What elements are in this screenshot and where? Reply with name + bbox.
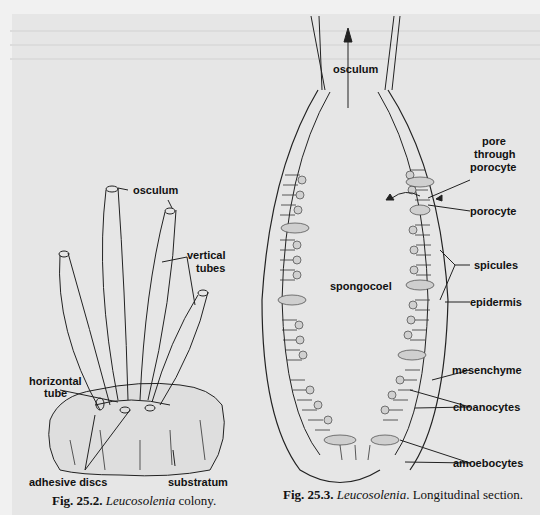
label-mesenchyme: mesenchyme [452, 364, 522, 376]
label-adhesive-discs: adhesive discs [29, 476, 107, 488]
label-horizontal-tube-2: tube [44, 387, 67, 399]
leucosolenia-colony-drawing [49, 186, 225, 476]
caption-text: . Longitudinal section. [406, 487, 523, 502]
longitudinal-section-drawing [262, 16, 470, 483]
illustrations [0, 0, 540, 515]
label-porocyte: porocyte [470, 205, 516, 217]
label-pore-1: pore [482, 135, 506, 147]
label-amoebocytes: amoebocytes [453, 457, 523, 469]
figure-caption-25-3: Fig. 25.3. Leucosolenia. Longitudinal se… [283, 487, 523, 503]
label-spongocoel: spongocoel [330, 280, 392, 292]
label-epidermis: epidermis [470, 296, 522, 308]
label-vertical-tubes-2: tubes [196, 262, 225, 274]
label-choanocytes: choanocytes [453, 401, 520, 413]
caption-genus: Leucosolenia [337, 487, 406, 502]
caption-genus: Leucosolenia [106, 493, 175, 508]
label-horizontal-tube-1: horizontal [29, 375, 82, 387]
caption-text: colony. [175, 493, 216, 508]
label-osculum-section: osculum [333, 63, 378, 75]
caption-number: Fig. 25.3. [283, 487, 334, 502]
caption-number: Fig. 25.2. [52, 493, 103, 508]
label-pore-3: porocyte [470, 161, 516, 173]
label-vertical-tubes-1: vertical [187, 249, 226, 261]
label-osculum-colony: osculum [133, 184, 178, 196]
label-spicules: spicules [474, 259, 518, 271]
label-pore-2: through [474, 148, 516, 160]
figure-caption-25-2: Fig. 25.2. Leucosolenia colony. [52, 493, 216, 509]
label-substratum: substratum [168, 476, 228, 488]
